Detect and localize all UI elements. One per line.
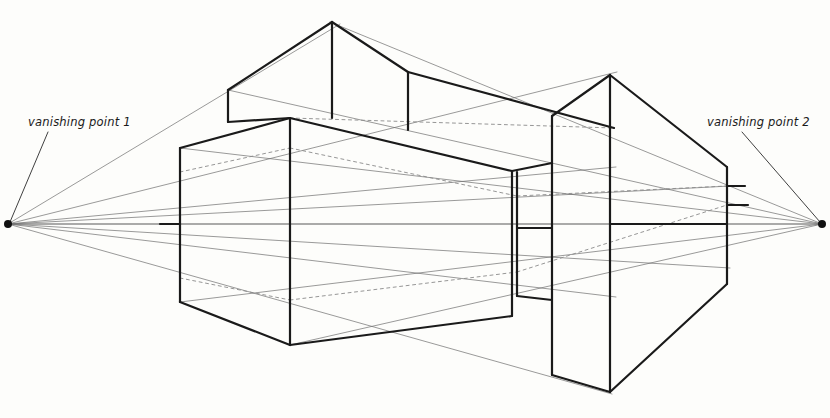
vanishing-point-1-marker[interactable]: [4, 220, 12, 228]
vanishing-point-2-label: vanishing point 2: [707, 115, 810, 129]
drawing-canvas: vanishing point 1 vanishing point 2: [0, 0, 830, 418]
vanishing-point-1-label: vanishing point 1: [28, 115, 131, 129]
canvas-background: [0, 0, 830, 418]
vanishing-point-2-marker[interactable]: [818, 220, 826, 228]
perspective-drawing: vanishing point 1 vanishing point 2: [0, 0, 830, 418]
